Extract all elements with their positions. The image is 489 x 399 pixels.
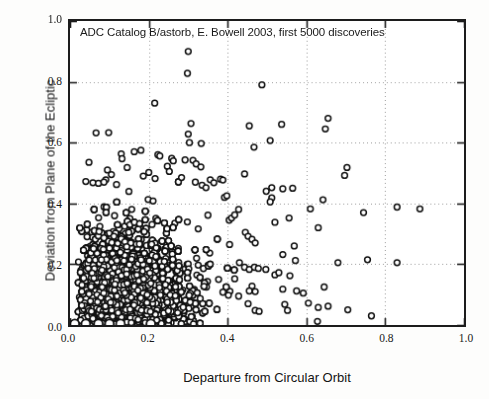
x-tick-label-4: 0.8 (379, 332, 393, 344)
scatter-plot-figure: ADC Catalog B/astorb, E. Bowell 2003, fi… (0, 0, 489, 399)
x-tick-label-2: 0.4 (220, 332, 234, 344)
y-tick-label-5: 1.0 (28, 13, 62, 25)
x-tick-label-3: 0.6 (300, 332, 314, 344)
x-tick-label-5: 1.0 (459, 332, 473, 344)
x-axis-title: Departure from Circular Orbit (68, 370, 466, 385)
x-tick-label-1: 0.2 (140, 332, 154, 344)
x-tick-label-0: 0.0 (61, 332, 75, 344)
y-axis-title: Deviation from Plane of the Ecliptic (43, 27, 58, 335)
scatter-canvas (70, 21, 464, 325)
plot-area (68, 19, 466, 327)
chart-title: ADC Catalog B/astorb, E. Bowell 2003, fi… (80, 26, 385, 38)
